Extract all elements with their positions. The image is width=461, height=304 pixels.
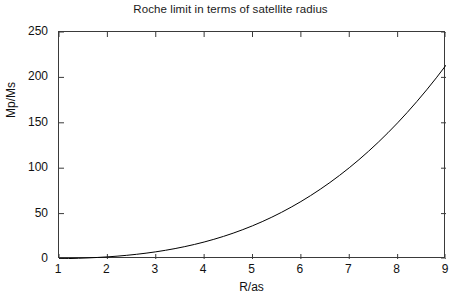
x-tick-label: 7 <box>333 263 363 275</box>
chart-title: Roche limit in terms of satellite radius <box>0 3 461 15</box>
y-tick-label: 100 <box>0 161 48 173</box>
y-tick-label: 50 <box>0 207 48 219</box>
x-tick-label: 4 <box>188 263 218 275</box>
axis-ticks <box>59 32 446 259</box>
x-tick-label: 1 <box>43 263 73 275</box>
plot-area <box>58 31 445 258</box>
data-series-line <box>59 65 446 259</box>
x-tick-label: 6 <box>285 263 315 275</box>
chart-figure: Roche limit in terms of satellite radius… <box>0 0 461 304</box>
x-tick-label: 2 <box>91 263 121 275</box>
y-tick-label: 0 <box>0 252 48 264</box>
y-tick-label: 200 <box>0 70 48 82</box>
x-axis-label: R/as <box>58 280 445 294</box>
x-tick-label: 5 <box>237 263 267 275</box>
y-axis-label: Mp/Ms <box>4 82 18 118</box>
y-tick-label: 250 <box>0 25 48 37</box>
x-tick-label: 3 <box>140 263 170 275</box>
plot-svg <box>59 32 446 259</box>
x-tick-label: 8 <box>382 263 412 275</box>
x-tick-label: 9 <box>430 263 460 275</box>
